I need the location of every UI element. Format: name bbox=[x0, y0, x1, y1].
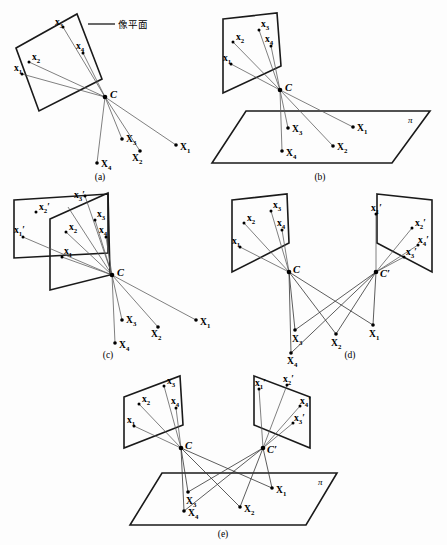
camera-center-C-d bbox=[287, 270, 292, 275]
label-x2-a: x2 bbox=[32, 52, 41, 64]
label-x4-e: x4 bbox=[171, 396, 180, 408]
world-point-X4-c bbox=[113, 341, 117, 345]
image-plane-c bbox=[50, 193, 110, 290]
label-x4-a: x4 bbox=[76, 41, 85, 53]
label-x2p-d: x2′ bbox=[415, 218, 426, 230]
world-point-X2-d bbox=[334, 332, 338, 336]
rays-left-e bbox=[134, 386, 272, 511]
camera-center-C-c bbox=[110, 273, 115, 278]
rays-a bbox=[22, 27, 176, 163]
label-X2-d: X2 bbox=[331, 338, 342, 350]
figure-container: x2 x1 x3 x4 C X1 X2 X3 X4 像平面 (a) bbox=[0, 0, 447, 545]
world-plane-pi-e bbox=[130, 473, 337, 525]
label-x3p-c: x3′ bbox=[74, 190, 85, 202]
image-point-x2-d bbox=[243, 222, 246, 225]
panel-a: x2 x1 x3 x4 C X1 X2 X3 X4 像平面 (a) bbox=[14, 14, 191, 183]
label-C-c: C bbox=[117, 267, 125, 278]
caption-d: (d) bbox=[344, 350, 355, 361]
label-X2-b: X2 bbox=[337, 142, 348, 154]
label-Cp-d: C′ bbox=[380, 268, 390, 279]
label-X4-b: X4 bbox=[286, 148, 297, 160]
rays-left-d bbox=[240, 211, 373, 353]
label-x2-b: x2 bbox=[236, 32, 245, 44]
label-x3-c: x3 bbox=[97, 209, 106, 221]
caption-b: (b) bbox=[314, 172, 325, 183]
label-X4-c: X4 bbox=[119, 340, 130, 352]
label-pi-e: π bbox=[318, 477, 323, 487]
label-X4-d: X4 bbox=[287, 356, 298, 368]
caption-c: (c) bbox=[103, 350, 114, 361]
label-C-e: C bbox=[185, 440, 193, 451]
caption-a: (a) bbox=[95, 172, 106, 183]
label-x1p-c: x1′ bbox=[14, 225, 25, 237]
world-point-X3-d bbox=[293, 328, 297, 332]
label-C-b: C bbox=[285, 82, 293, 93]
label-x2p-e: x2′ bbox=[283, 374, 294, 386]
label-x2p-c: x2′ bbox=[39, 202, 50, 214]
label-x1-c: x1 bbox=[64, 246, 73, 258]
world-point-X3-c bbox=[120, 318, 124, 322]
world-point-X4-d bbox=[289, 351, 293, 355]
label-X1-e: X1 bbox=[276, 485, 287, 497]
world-point-X3-b bbox=[286, 126, 290, 130]
world-point-X3-a bbox=[120, 137, 124, 141]
label-x1-b: x1 bbox=[223, 53, 232, 65]
figure-svg: x2 x1 x3 x4 C X1 X2 X3 X4 像平面 (a) bbox=[0, 0, 447, 545]
label-X3-a: X3 bbox=[126, 134, 137, 146]
label-x2-d: x2 bbox=[247, 213, 256, 225]
label-X3-d: X3 bbox=[292, 334, 303, 346]
world-plane-pi-b bbox=[212, 111, 430, 163]
label-x3p-e: x3′ bbox=[294, 413, 305, 425]
label-X3-b: X3 bbox=[292, 124, 303, 136]
label-x4p-d: x4′ bbox=[418, 235, 429, 247]
image-point-x2-e bbox=[138, 403, 141, 406]
label-x4p-e: x4′ bbox=[300, 396, 311, 408]
label-x3-a: x3 bbox=[55, 17, 64, 29]
annotation-image-plane: 像平面 bbox=[118, 19, 148, 30]
camera-center-C-b bbox=[278, 88, 283, 93]
panel-e: x2 x1 x3 x4 x1′ x2′ x4′ x3′ C C′ X1 X2 X… bbox=[124, 374, 337, 540]
world-point-X4-a bbox=[95, 161, 99, 165]
image-point-x2p-d bbox=[411, 227, 414, 230]
image-point-x2-b bbox=[232, 41, 235, 44]
label-x2-e: x2 bbox=[142, 394, 151, 406]
label-C-a: C bbox=[110, 89, 118, 100]
label-X1-c: X1 bbox=[200, 317, 211, 329]
label-x4-d: x4 bbox=[277, 218, 286, 230]
world-point-X1-b bbox=[351, 125, 355, 129]
world-point-X4-b bbox=[280, 149, 284, 153]
image-point-x2-c bbox=[65, 231, 68, 234]
caption-e: (e) bbox=[218, 529, 229, 540]
label-x3-b: x3 bbox=[261, 19, 270, 31]
world-point-X3-e bbox=[186, 490, 190, 494]
image-plane-primed-c bbox=[14, 194, 108, 258]
label-X2-c: X2 bbox=[151, 329, 162, 341]
label-X4-e: X4 bbox=[188, 508, 199, 520]
image-point-x3-e bbox=[163, 385, 166, 388]
image-point-x2p-c bbox=[35, 211, 38, 214]
label-x2-c: x2 bbox=[69, 222, 78, 234]
label-X2-a: X2 bbox=[132, 153, 143, 165]
label-pi-b: π bbox=[408, 115, 413, 125]
world-point-X4-e bbox=[182, 509, 186, 513]
label-x4-c: x4 bbox=[99, 225, 108, 237]
label-X2-e: X2 bbox=[244, 504, 255, 516]
camera-center-Cp-e bbox=[261, 446, 266, 451]
rays-right-d bbox=[291, 214, 418, 353]
label-x1-d: x1 bbox=[232, 236, 241, 248]
camera-center-Cp-d bbox=[374, 270, 379, 275]
world-point-X2-b bbox=[331, 144, 335, 148]
label-X1-d: X1 bbox=[369, 329, 380, 341]
camera-center-C-a bbox=[103, 95, 108, 100]
label-x1-e: x1 bbox=[127, 415, 136, 427]
label-Cp-e: C′ bbox=[267, 444, 277, 455]
label-x3-d: x3 bbox=[273, 200, 282, 212]
world-point-X1-c bbox=[194, 318, 198, 322]
label-x1p-e: x1′ bbox=[255, 378, 266, 390]
panel-c: x2′ x1′ x3′ x2 x1 x3 x4 C X1 X2 X3 X4 (c… bbox=[14, 190, 211, 361]
label-X1-b: X1 bbox=[357, 123, 368, 135]
image-point-x2-a bbox=[28, 61, 31, 64]
camera-center-C-e bbox=[179, 446, 184, 451]
label-C-d: C bbox=[293, 264, 301, 275]
panel-b: x2 x1 x3 x4 C X1 X2 X3 X4 π (b) bbox=[212, 13, 430, 183]
